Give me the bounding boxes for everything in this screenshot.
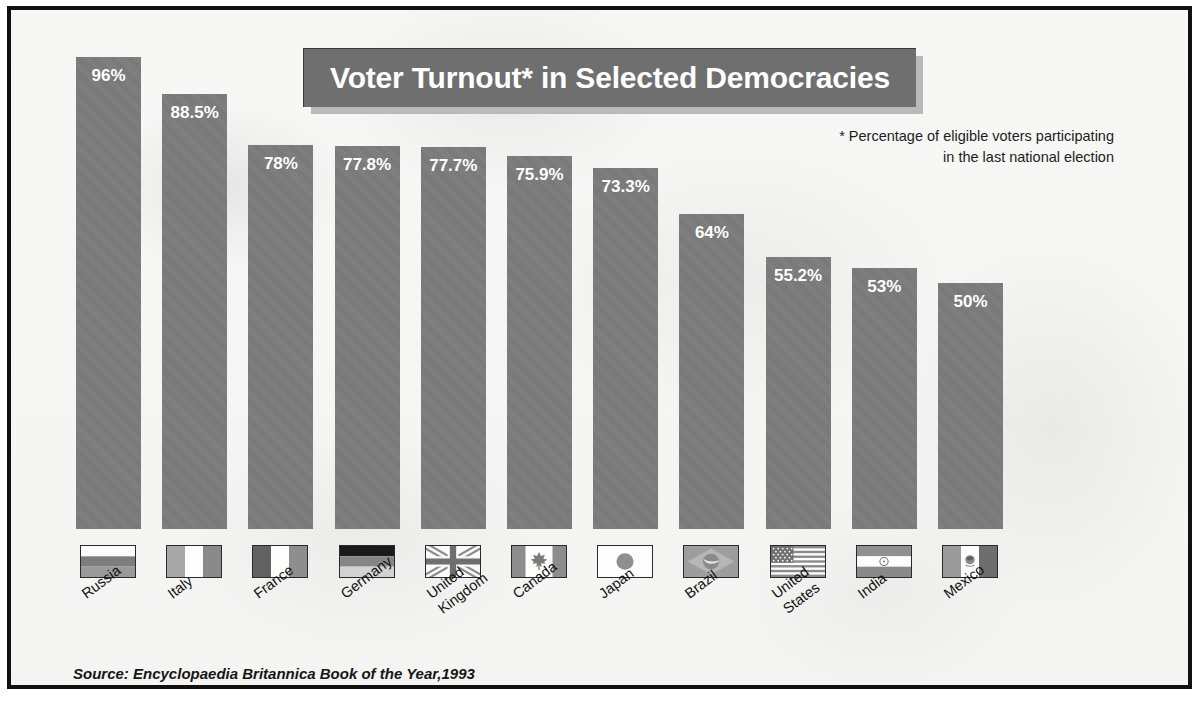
- bar-japan: 73.3%: [593, 168, 658, 529]
- bar-value-label: 64%: [679, 223, 744, 243]
- flag-india-icon: [856, 545, 912, 578]
- chart-frame: Voter Turnout* in Selected Democracies *…: [7, 6, 1192, 689]
- bar-value-label: 77.7%: [421, 156, 486, 176]
- bar-rect: [507, 156, 572, 529]
- bar-value-label: 77.8%: [335, 155, 400, 175]
- flag-italy-icon: [166, 545, 222, 578]
- bar-brazil: 64%: [679, 214, 744, 529]
- bar-rect: [162, 94, 227, 529]
- bar-rect: [76, 57, 141, 529]
- bar-rect: [938, 283, 1003, 529]
- bar-rect: [248, 145, 313, 529]
- bar-germany: 77.8%: [335, 146, 400, 529]
- bar-value-label: 50%: [938, 292, 1003, 312]
- bar-rect: [421, 147, 486, 529]
- bar-united-kingdom: 77.7%: [421, 147, 486, 529]
- bar-rect: [679, 214, 744, 529]
- bar-canada: 75.9%: [507, 156, 572, 529]
- bar-india: 53%: [852, 268, 917, 529]
- bar-rect: [766, 257, 831, 529]
- bar-value-label: 53%: [852, 277, 917, 297]
- bar-value-label: 75.9%: [507, 165, 572, 185]
- bar-rect: [593, 168, 658, 529]
- bar-value-label: 78%: [248, 154, 313, 174]
- bar-value-label: 88.5%: [162, 103, 227, 123]
- bar-russia: 96%: [76, 57, 141, 529]
- plot-area: 96%Russia88.5%Italy78%France77.8%Germany…: [11, 10, 1188, 685]
- bar-value-label: 96%: [76, 66, 141, 86]
- bar-italy: 88.5%: [162, 94, 227, 529]
- bar-united-states: 55.2%: [766, 257, 831, 529]
- bar-value-label: 55.2%: [766, 266, 831, 286]
- bar-rect: [852, 268, 917, 529]
- bar-value-label: 73.3%: [593, 177, 658, 197]
- bar-mexico: 50%: [938, 283, 1003, 529]
- bar-france: 78%: [248, 145, 313, 529]
- chart-page: Voter Turnout* in Selected Democracies *…: [0, 0, 1199, 705]
- source-note: Source: Encyclopaedia Britannica Book of…: [73, 665, 475, 682]
- bar-rect: [335, 146, 400, 529]
